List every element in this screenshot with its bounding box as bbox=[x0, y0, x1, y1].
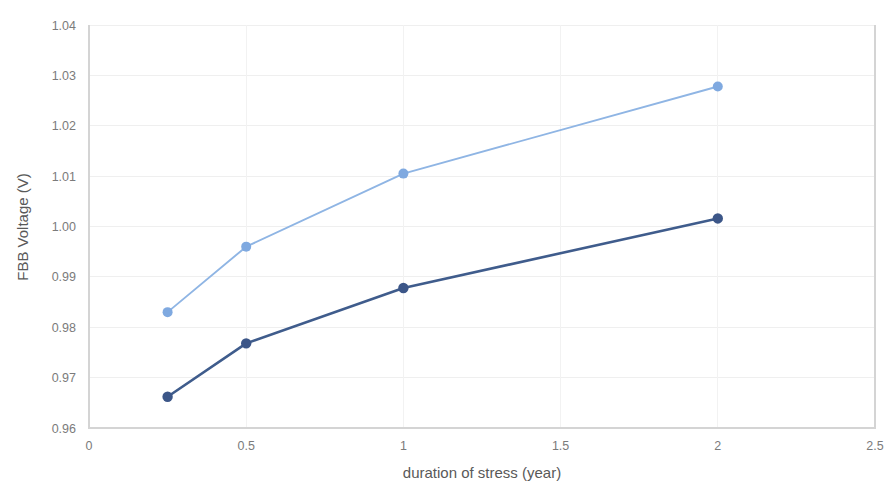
y-tick-label: 0.97 bbox=[52, 371, 76, 385]
line-chart: 0.960.970.980.991.001.011.021.031.04 00.… bbox=[0, 0, 896, 495]
y-tick-label: 0.99 bbox=[52, 270, 76, 284]
data-point bbox=[241, 242, 251, 252]
x-tick-label: 2 bbox=[714, 439, 721, 453]
y-tick-label: 0.98 bbox=[52, 321, 76, 335]
chart-canvas: 0.960.970.980.991.001.011.021.031.04 00.… bbox=[0, 0, 896, 495]
y-tick-label: 1.03 bbox=[52, 69, 76, 83]
horizontal-gridlines bbox=[89, 25, 875, 428]
x-tick-label: 1.5 bbox=[552, 439, 569, 453]
y-tick-label: 1.01 bbox=[52, 170, 76, 184]
x-tick-label: 0.5 bbox=[238, 439, 255, 453]
y-axis-title: FBB Voltage (V) bbox=[14, 173, 31, 281]
data-point bbox=[713, 213, 723, 223]
data-point bbox=[713, 81, 723, 91]
y-tick-label: 0.96 bbox=[52, 422, 76, 436]
data-point bbox=[398, 169, 408, 179]
x-tick-label: 2.5 bbox=[866, 439, 883, 453]
data-point bbox=[162, 392, 172, 402]
y-tick-label: 1.04 bbox=[52, 19, 76, 33]
data-point bbox=[163, 307, 173, 317]
x-tick-label: 0 bbox=[86, 439, 93, 453]
x-axis-tick-labels: 00.511.522.5 bbox=[86, 439, 884, 453]
y-axis-tick-labels: 0.960.970.980.991.001.011.021.031.04 bbox=[52, 19, 76, 436]
data-point bbox=[241, 338, 251, 348]
y-tick-label: 1.02 bbox=[52, 119, 76, 133]
data-point bbox=[398, 283, 408, 293]
x-axis-title: duration of stress (year) bbox=[403, 464, 561, 481]
x-tick-label: 1 bbox=[400, 439, 407, 453]
y-tick-label: 1.00 bbox=[52, 220, 76, 234]
